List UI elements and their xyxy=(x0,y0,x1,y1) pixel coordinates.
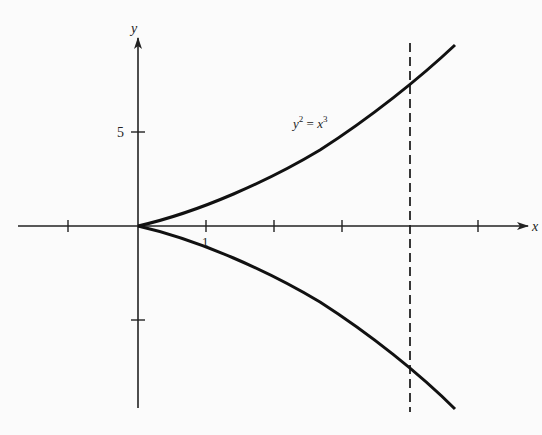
y-axis-label: y xyxy=(129,21,138,36)
curve-lower-branch xyxy=(138,226,455,409)
x-tick-label-1: 1 xyxy=(202,234,209,249)
curve-upper-branch xyxy=(138,45,455,226)
x-axis-label: x xyxy=(531,219,539,234)
equation-label: y2 = x3 xyxy=(291,114,328,131)
cusp-diagram: y x 5 1 y2 = x3 xyxy=(0,0,542,435)
y-tick-label-5: 5 xyxy=(117,125,124,140)
